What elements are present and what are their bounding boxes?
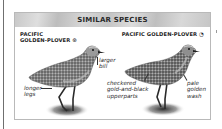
species-label-right: PACIFIC GOLDEN-PLOVER ◔ <box>122 31 204 37</box>
annotation-checkered-upperparts: checkered gold-and-black upperparts <box>107 80 149 99</box>
similar-species-panel: SIMILAR SPECIES PACIFIC GOLDEN-PLOVER ⊛ … <box>14 12 211 120</box>
leader-line-bill <box>97 57 98 65</box>
annotation-longer-legs: longer legs <box>24 85 42 98</box>
annotation-larger-bill: larger bill <box>99 57 116 70</box>
panel-title: SIMILAR SPECIES <box>77 16 147 24</box>
nonbreeding-plumage-icon: ◔ <box>199 31 204 37</box>
margin-mark <box>216 30 217 33</box>
annotation-pale-golden-wash: pale golden wash <box>187 80 206 99</box>
panel-header: SIMILAR SPECIES <box>15 13 210 27</box>
left-bird-illustration <box>23 41 105 121</box>
species-name: PACIFIC GOLDEN-PLOVER <box>122 31 197 37</box>
page-edge-line <box>3 0 4 129</box>
leader-line-legs <box>41 88 52 89</box>
